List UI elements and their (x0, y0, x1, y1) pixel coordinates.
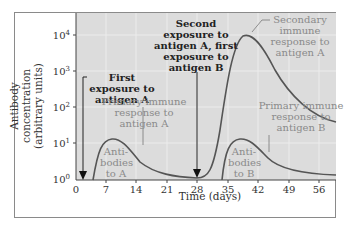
y-tick-10e3: 103 (44, 65, 70, 77)
x-tick: 49 (279, 184, 299, 195)
annotation-primary-b: Primary immune response to antigen B (258, 100, 344, 133)
y-tick-10e2: 102 (44, 101, 70, 113)
annotation-primary-a: Primary immune response to antigen A (98, 96, 190, 129)
x-tick: 56 (309, 184, 329, 195)
x-tick: 14 (126, 184, 146, 195)
x-tick: 0 (66, 184, 86, 195)
y-axis-label: Antibody concentration (arbitrary units) (8, 46, 44, 166)
annotation-antibodies-a: Anti- bodies to A (100, 146, 132, 179)
x-tick: 7 (96, 184, 116, 195)
annotation-antibodies-b: Anti- bodies to B (228, 146, 260, 179)
y-tick-10e4: 104 (44, 29, 70, 41)
x-axis-label: Time (days) (150, 190, 270, 202)
annotation-secondary-a: Secondary immune response to antigen A (266, 14, 334, 58)
annotation-second-exposure: Second exposure to antigen A, first expo… (150, 18, 242, 73)
y-tick-10e1: 101 (44, 137, 70, 149)
